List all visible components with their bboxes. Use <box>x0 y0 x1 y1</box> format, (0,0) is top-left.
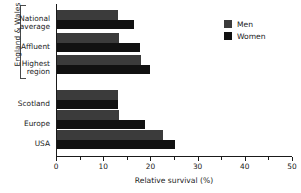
x-tick-major-20 <box>150 157 151 161</box>
bar-men-3 <box>57 90 118 100</box>
bar-men-0 <box>57 10 118 20</box>
x-tick-minor-5 <box>80 157 81 160</box>
bar-women-1 <box>57 43 140 53</box>
category-label-3: Scotland <box>0 100 50 108</box>
legend-label-women: Women <box>237 32 266 41</box>
category-label-0: National average <box>0 15 50 32</box>
x-tick-major-0 <box>56 157 57 161</box>
x-tick-minor-45 <box>268 157 269 160</box>
x-tick-major-50 <box>292 157 293 161</box>
legend: Men Women <box>224 18 266 42</box>
category-label-5: USA <box>0 140 50 148</box>
bar-women-3 <box>57 100 118 110</box>
legend-swatch-men-icon <box>224 20 232 28</box>
x-tick-label-0: 0 <box>44 162 68 171</box>
bar-men-4 <box>57 110 119 120</box>
x-tick-major-10 <box>103 157 104 161</box>
legend-label-men: Men <box>237 20 253 29</box>
x-tick-minor-25 <box>174 157 175 160</box>
legend-item-women[interactable]: Women <box>224 30 266 42</box>
category-label-1: Affluent <box>0 43 50 51</box>
x-tick-minor-35 <box>221 157 222 160</box>
x-tick-label-30: 30 <box>186 162 210 171</box>
x-tick-major-40 <box>245 157 246 161</box>
category-label-2: Highest region <box>0 60 50 77</box>
relative-survival-bar-chart: England & Wales National averageAffluent… <box>0 0 301 193</box>
bar-men-1 <box>57 33 119 43</box>
bar-women-2 <box>57 65 150 75</box>
x-tick-label-10: 10 <box>91 162 115 171</box>
legend-item-men[interactable]: Men <box>224 18 266 30</box>
x-tick-label-40: 40 <box>233 162 257 171</box>
x-tick-label-50: 50 <box>280 162 301 171</box>
x-tick-minor-15 <box>127 157 128 160</box>
x-axis-title: Relative survival (%) <box>56 176 292 185</box>
bar-women-4 <box>57 120 145 130</box>
bar-men-5 <box>57 130 163 140</box>
bar-women-0 <box>57 20 134 30</box>
bar-men-2 <box>57 55 141 65</box>
category-label-4: Europe <box>0 120 50 128</box>
x-tick-major-30 <box>198 157 199 161</box>
legend-swatch-women-icon <box>224 32 232 40</box>
bar-women-5 <box>57 140 175 150</box>
category-axis-labels: National averageAffluentHighest regionSc… <box>0 0 53 160</box>
x-tick-label-20: 20 <box>138 162 162 171</box>
